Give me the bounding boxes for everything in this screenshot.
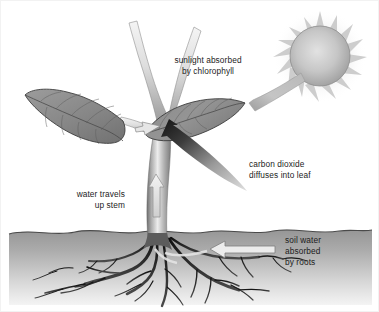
water-travels-line-2: up stem [95, 200, 125, 210]
soil-water-line-1: soil water [285, 235, 321, 245]
water-travels-line-1: water travels [76, 189, 125, 199]
photosynthesis-diagram: sunlight absorbed by chlorophyll carbon … [0, 0, 379, 312]
sunlight-absorbed-line-1: sunlight absorbed [174, 55, 241, 65]
water-travels-label: water travels up stem [76, 189, 125, 210]
carbon-dioxide-line-2: diffuses into leaf [249, 170, 311, 180]
left-leaf-blade [25, 89, 125, 143]
carbon-dioxide-line-1: carbon dioxide [249, 159, 305, 169]
soil-water-line-2: absorbed [285, 246, 321, 256]
sunlight-absorbed-line-2: by chlorophyll [182, 66, 234, 76]
sunlight-absorbed-label: sunlight absorbed by chlorophyll [174, 55, 241, 76]
diagram-canvas: sunlight absorbed by chlorophyll carbon … [1, 1, 379, 312]
left-leaf [25, 89, 125, 144]
carbon-dioxide-label: carbon dioxide diffuses into leaf [249, 159, 311, 180]
soil-water-line-3: by roots [285, 257, 315, 267]
stem-branch-left [129, 21, 169, 121]
